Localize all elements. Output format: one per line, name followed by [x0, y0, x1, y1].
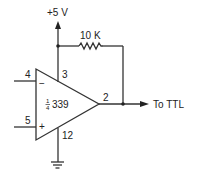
- comparator-circuit: +5 V 10 K 4 5 3 12 2 − + 1 4 339 To TTL: [0, 0, 203, 179]
- pin-label-output: 2: [103, 92, 109, 103]
- output-label: To TTL: [153, 99, 184, 110]
- output-arrow-icon: [140, 101, 149, 107]
- supply-label: +5 V: [47, 7, 68, 18]
- pin-label-noninverting: 5: [25, 115, 31, 126]
- pin-label-inverting: 4: [25, 69, 31, 80]
- noninverting-symbol: +: [39, 121, 45, 132]
- supply-arrow-icon: [55, 21, 61, 29]
- chip-fraction-denominator: 4: [46, 105, 50, 111]
- chip-label: 339: [52, 99, 69, 110]
- pin-label-supply: 3: [62, 69, 68, 80]
- junction-dot-supply: [56, 44, 60, 48]
- junction-dot-output: [121, 102, 125, 106]
- pin-label-ground: 12: [62, 130, 74, 141]
- resistor-symbol: [79, 43, 103, 49]
- inverting-symbol: −: [39, 78, 45, 89]
- chip-fraction-numerator: 1: [46, 98, 50, 104]
- resistor-label: 10 K: [80, 30, 101, 41]
